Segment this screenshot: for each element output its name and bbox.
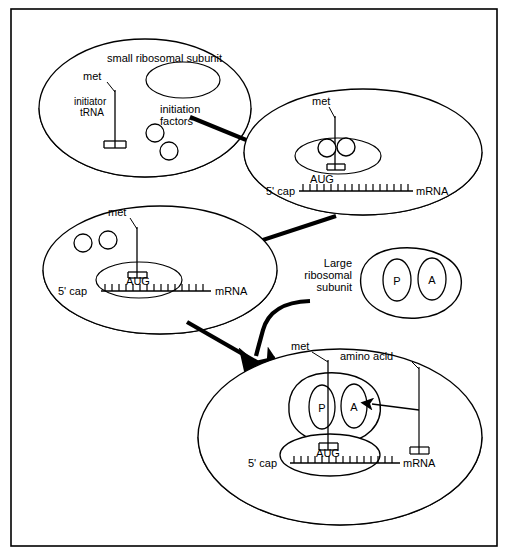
- stage-1-small-subunit: small ribosomal subunit met initiator tR…: [39, 39, 251, 177]
- label-codon-aug-4: AUG: [316, 447, 340, 459]
- label-5prime-cap-2: 5' cap: [266, 185, 295, 197]
- label-site-p-4: P: [318, 402, 325, 414]
- label-5prime-cap-4: 5' cap: [248, 457, 277, 469]
- label-large-subunit-line2: ribosomal: [304, 269, 352, 281]
- stage-3-scanning-complex: met 5' cap AUG mRNA: [43, 206, 277, 334]
- label-met-3: met: [108, 206, 126, 218]
- initiation-factor-circle-3a: [74, 234, 92, 252]
- label-initiation-factors-line1: initiation: [160, 103, 200, 115]
- label-site-p-large: P: [393, 275, 400, 287]
- initiation-factor-circle-1b: [160, 142, 178, 160]
- label-mrna-4: mRNA: [403, 457, 436, 469]
- label-site-a-4: A: [350, 401, 358, 413]
- label-amino-acid-4: amino acid: [340, 350, 393, 362]
- label-codon-aug-2: AUG: [310, 173, 334, 185]
- translation-initiation-figure: small ribosomal subunit met initiator tR…: [0, 0, 508, 556]
- subunit-cleft-1: [146, 62, 220, 98]
- label-mrna-2: mRNA: [416, 185, 449, 197]
- initiation-factor-circle-2a: [318, 139, 336, 157]
- label-large-subunit-line3: subunit: [317, 281, 352, 293]
- initiation-factor-circle-2b: [337, 138, 355, 156]
- label-initiation-factors-line2: factors: [160, 115, 194, 127]
- label-met-4: met: [291, 340, 309, 352]
- initiation-factor-circle-3b: [99, 231, 117, 249]
- label-large-subunit-line1: Large: [324, 257, 352, 269]
- diagram-canvas: small ribosomal subunit met initiator tR…: [0, 0, 508, 556]
- label-mrna-3: mRNA: [215, 285, 248, 297]
- label-initiator-trna-line2: tRNA: [80, 107, 104, 118]
- label-initiator-trna-line1: initiator: [74, 96, 107, 107]
- label-codon-aug-3: AUG: [126, 275, 150, 287]
- label-5prime-cap-3: 5' cap: [58, 285, 87, 297]
- label-met-2: met: [312, 95, 330, 107]
- label-met-1: met: [83, 70, 101, 82]
- label-small-ribosomal-subunit: small ribosomal subunit: [107, 52, 222, 64]
- label-site-a-large: A: [428, 274, 436, 286]
- stage-2-subunit-on-mrna: met 5' cap AUG mRNA: [244, 89, 482, 215]
